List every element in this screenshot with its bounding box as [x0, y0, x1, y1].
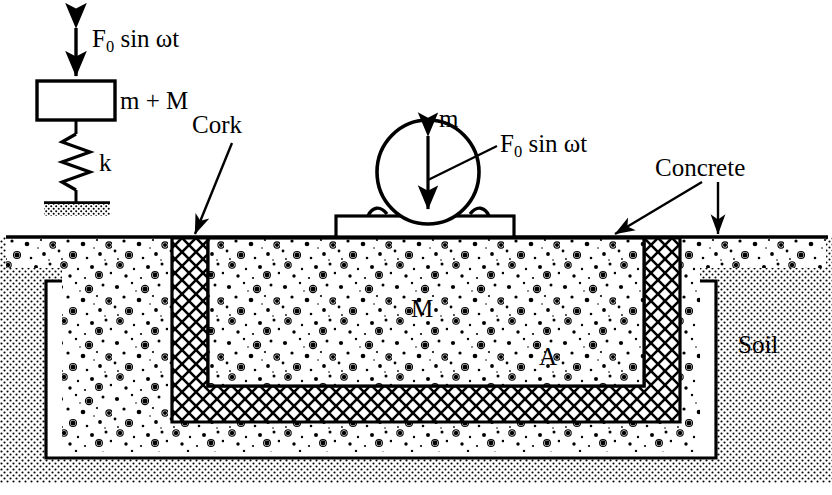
- schematic-ground-hatch: [44, 204, 110, 216]
- schematic-mass-label: m + M: [120, 88, 188, 113]
- schematic-excitation-label: F0 sin ωt: [92, 26, 179, 56]
- diagram-canvas: [0, 0, 832, 495]
- schematic-spring-constant-label: k: [99, 150, 112, 175]
- cork-label: Cork: [192, 112, 242, 137]
- lumped-model-schematic: [37, 28, 115, 216]
- engineering-diagram-figure: F0 sin ωt m + M k m F0 sin ωt Cork Concr…: [0, 0, 832, 495]
- machine-assembly: [336, 120, 514, 237]
- cork-leader-arrow: [195, 143, 232, 234]
- concrete-label: Concrete: [655, 155, 745, 180]
- concrete-leader-arrow-left: [615, 182, 702, 234]
- soil-label: Soil: [738, 332, 778, 357]
- machine-mass-label: m: [439, 106, 458, 131]
- block-mass-label: M: [411, 296, 433, 321]
- machine-excitation-label: F0 sin ωt: [500, 131, 587, 161]
- schematic-mass-block: [37, 81, 115, 120]
- base-area-label: A: [539, 344, 557, 369]
- schematic-spring: [62, 134, 90, 190]
